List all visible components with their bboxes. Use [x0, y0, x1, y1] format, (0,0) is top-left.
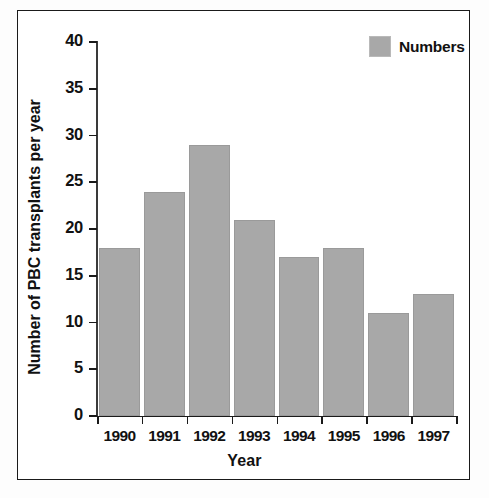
- x-axis-tick: [456, 416, 458, 424]
- x-axis-tick-label: 1991: [142, 427, 187, 445]
- x-axis-tick-label: 1994: [277, 427, 322, 445]
- y-axis-tick: [89, 322, 97, 324]
- x-axis-tick-label: 1992: [187, 427, 232, 445]
- x-axis-tick-label: 1995: [321, 427, 366, 445]
- legend-label-numbers: Numbers: [399, 38, 465, 56]
- y-axis-tick-label: 40: [0, 31, 83, 50]
- figure: 0510152025303540 19901991199219931994199…: [0, 0, 489, 498]
- x-axis-tick-labels: 19901991199219931994199519961997: [97, 0, 456, 498]
- y-axis-tick: [89, 228, 97, 230]
- y-axis-tick: [89, 41, 97, 43]
- y-axis-tick: [89, 181, 97, 183]
- legend-swatch-numbers: [369, 36, 391, 57]
- x-axis-title: Year: [0, 452, 489, 470]
- y-axis-tick: [89, 135, 97, 137]
- x-axis-tick-label: 1990: [97, 427, 142, 445]
- y-axis-tick: [89, 88, 97, 90]
- x-axis-tick-label: 1997: [411, 427, 456, 445]
- y-axis-tick: [89, 275, 97, 277]
- y-axis-tick: [89, 415, 97, 417]
- y-axis-title: Number of PBC transplants per year: [26, 57, 44, 417]
- x-axis-tick-label: 1996: [366, 427, 411, 445]
- x-axis-tick-label: 1993: [232, 427, 277, 445]
- y-axis-tick: [89, 368, 97, 370]
- legend: Numbers: [369, 36, 465, 57]
